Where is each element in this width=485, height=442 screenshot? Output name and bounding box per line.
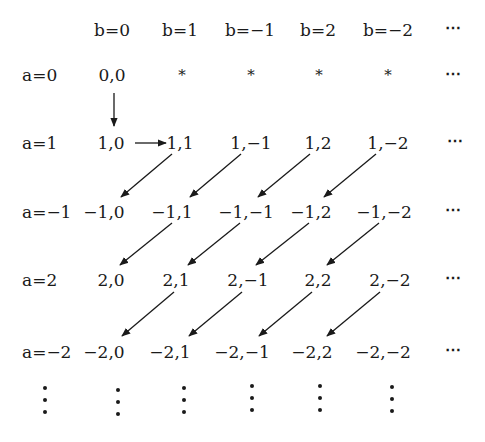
- row-label-am1: a=−1: [22, 202, 71, 222]
- row-label-a1: a=1: [22, 133, 57, 153]
- row-label-a0: a=0: [22, 65, 57, 85]
- cell-m1-2: −1,2: [290, 202, 331, 222]
- arrow-diagonal-icon: [256, 223, 309, 265]
- vertical-ellipsis: [250, 384, 254, 420]
- cell-2-0: 2,0: [97, 270, 124, 290]
- row-ellipsis: ⋯: [445, 200, 467, 220]
- cell-star: *: [384, 65, 392, 85]
- row-ellipsis: ⋯: [445, 64, 467, 84]
- arrow-diagonal-icon: [190, 154, 241, 197]
- cell-0-0: 0,0: [98, 65, 125, 85]
- cell-m1-m1: −1,−1: [218, 202, 274, 222]
- cell-m2-m1: −2,−1: [214, 342, 270, 362]
- cell-1-1: 1,1: [166, 133, 193, 153]
- cell-1-0: 1,0: [97, 133, 124, 153]
- arrow-diagonal-icon: [327, 292, 380, 336]
- arrow-diagonal-icon: [324, 154, 376, 197]
- cell-m2-m2: −2,−2: [355, 342, 411, 362]
- cell-star: *: [247, 65, 255, 85]
- row-label-am2: a=−2: [22, 342, 71, 362]
- cell-m1-m2: −1,−2: [356, 202, 412, 222]
- arrow-diagonal-icon: [122, 292, 174, 336]
- arrow-diagonal-icon: [188, 223, 240, 265]
- arrow-diagonal-icon: [258, 154, 310, 197]
- column-header-ellipsis: ⋯: [445, 18, 467, 38]
- arrow-diagonal-icon: [327, 223, 379, 265]
- arrow-diagonal-icon: [120, 223, 172, 265]
- cell-m1-1: −1,1: [151, 202, 192, 222]
- cell-m2-1: −2,1: [149, 342, 190, 362]
- cell-star: *: [315, 65, 323, 85]
- cell-1-2: 1,2: [304, 133, 331, 153]
- cell-m2-0: −2,0: [83, 342, 124, 362]
- arrow-diagonal-icon: [189, 292, 242, 336]
- vertical-ellipsis: [116, 388, 120, 424]
- column-header-bm1: b=−1: [225, 20, 275, 40]
- cell-2-1: 2,1: [162, 270, 189, 290]
- column-header-b2: b=2: [300, 20, 336, 40]
- row-label-a2: a=2: [22, 270, 57, 290]
- cell-star: *: [178, 65, 186, 85]
- cell-m2-2: −2,2: [291, 342, 332, 362]
- cell-1-m2: 1,−2: [367, 133, 408, 153]
- arrow-diagonal-icon: [259, 292, 312, 336]
- vertical-ellipsis: [390, 385, 394, 421]
- cell-2-2: 2,2: [304, 270, 331, 290]
- arrow-diagonal-icon: [121, 154, 172, 197]
- cell-2-m2: 2,−2: [369, 270, 410, 290]
- row-ellipsis: ⋯: [445, 268, 467, 288]
- column-header-bm2: b=−2: [363, 20, 413, 40]
- column-header-b0: b=0: [94, 20, 130, 40]
- vertical-ellipsis: [43, 386, 47, 422]
- vertical-ellipsis: [182, 386, 186, 422]
- cell-m1-0: −1,0: [83, 202, 124, 222]
- cell-1-m1: 1,−1: [230, 133, 271, 153]
- vertical-ellipsis: [318, 384, 322, 420]
- row-ellipsis: ⋯: [445, 340, 467, 360]
- row-ellipsis: ⋯: [447, 131, 469, 151]
- column-header-b1: b=1: [162, 20, 198, 40]
- cell-2-m1: 2,−1: [227, 270, 268, 290]
